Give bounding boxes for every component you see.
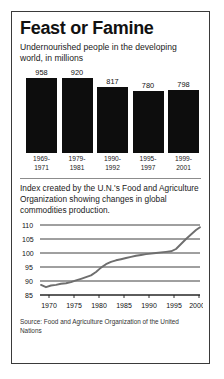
bar-axis-label-line1: 1999- — [168, 155, 199, 164]
bar-item: 798 — [168, 69, 199, 153]
bar-item: 958 — [26, 69, 57, 153]
bar-item: 780 — [133, 69, 164, 153]
bar-axis-labels: 1969- 1971 1979- 1981 1990- 1992 1995- 1… — [26, 155, 199, 175]
page-title: Feast or Famine — [20, 19, 201, 38]
infographic-panel: Feast or Famine Undernourished people in… — [11, 11, 210, 364]
y-tick-label: 110 — [22, 222, 33, 229]
bar-axis-label-line1: 1969- — [26, 155, 57, 164]
bar-axis-label-line2: 1992 — [97, 164, 128, 173]
x-tick-label: 1980 — [91, 302, 107, 309]
y-tick-label: 85 — [25, 292, 33, 299]
bar-axis-label-line2: 1981 — [62, 164, 93, 173]
bar-axis-label: 1990- 1992 — [97, 155, 128, 175]
bar-value-label: 780 — [142, 82, 154, 89]
x-axis-tick-labels: 1970 1975 1980 1985 1990 1995 2000 — [41, 302, 203, 309]
line-chart-svg: 110 105 100 95 90 85 1970 1975 — [20, 219, 203, 313]
bar-axis-label-line2: 1997 — [133, 164, 164, 173]
bar-value-label: 958 — [35, 69, 47, 76]
bar-rect — [97, 87, 128, 153]
section-divider — [20, 178, 201, 179]
bar-axis-label-line1: 1990- — [97, 155, 128, 164]
bar-axis-label-line1: 1995- — [133, 155, 164, 164]
y-tick-label: 90 — [25, 278, 33, 285]
x-tick-label: 2000 — [189, 302, 203, 309]
x-tick-label: 1990 — [141, 302, 157, 309]
chart-description: Index created by the U.N.'s Food and Agr… — [20, 183, 201, 216]
line-series — [41, 227, 200, 287]
bar-chart: 958 920 817 780 798 1969- — [20, 69, 201, 175]
bar-rect — [26, 78, 57, 153]
x-tick-label: 1995 — [166, 302, 182, 309]
bar-rect — [133, 91, 164, 153]
x-tick-label: 1985 — [116, 302, 132, 309]
bar-rect — [168, 90, 199, 153]
bar-axis-label: 1969- 1971 — [26, 155, 57, 175]
source-note: Source: Food and Agriculture Organizatio… — [20, 318, 201, 336]
bar-value-label: 798 — [177, 81, 189, 88]
bar-axis-label: 1979- 1981 — [62, 155, 93, 175]
bar-series: 958 920 817 780 798 — [26, 69, 199, 153]
y-axis-tick-labels: 110 105 100 95 90 85 — [22, 222, 34, 299]
bar-axis-label-line2: 1971 — [26, 164, 57, 173]
y-tick-label: 100 — [22, 250, 34, 257]
y-tick-label: 95 — [25, 264, 33, 271]
bar-axis-label-line2: 2001 — [168, 164, 199, 173]
chart-subtitle: Undernourished people in the developing … — [20, 42, 201, 65]
line-chart: 110 105 100 95 90 85 1970 1975 — [20, 219, 201, 315]
bar-axis-label: 1995- 1997 — [133, 155, 164, 175]
bar-rect — [62, 78, 93, 153]
x-tick-label: 1975 — [66, 302, 82, 309]
bar-axis-label: 1999- 2001 — [168, 155, 199, 175]
bar-item: 920 — [62, 69, 93, 153]
bar-item: 817 — [97, 69, 128, 153]
x-tick-label: 1970 — [41, 302, 57, 309]
bar-value-label: 817 — [106, 78, 118, 85]
bar-value-label: 920 — [71, 69, 83, 76]
y-tick-label: 105 — [22, 236, 34, 243]
bar-axis-label-line1: 1979- — [62, 155, 93, 164]
